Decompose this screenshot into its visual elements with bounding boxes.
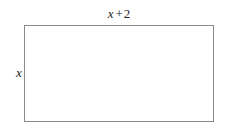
rectangle-shape [24, 25, 214, 122]
rectangle-figure: x+2 x [0, 0, 226, 129]
width-label-constant: 2 [124, 6, 131, 21]
width-label-expression: x+2 [108, 7, 131, 20]
width-label-variable: x [108, 6, 114, 21]
width-label-operator: + [115, 6, 122, 21]
height-label: x [13, 66, 25, 79]
height-label-variable: x [16, 65, 22, 80]
width-label: x+2 [0, 7, 226, 20]
